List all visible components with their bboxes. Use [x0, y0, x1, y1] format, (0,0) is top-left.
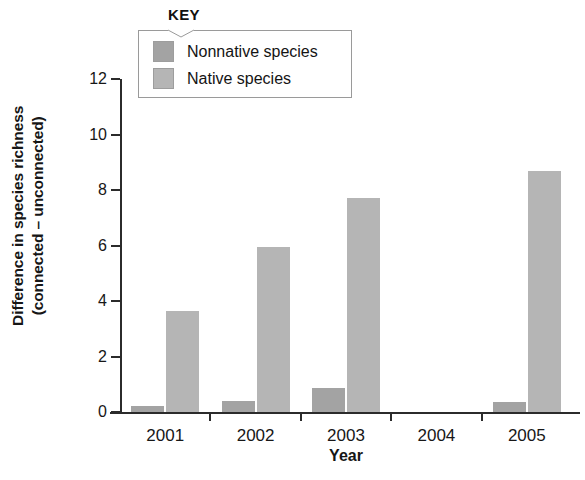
legend-item: Nonnative species — [153, 38, 351, 65]
bar — [312, 388, 345, 412]
y-tick-label: 8 — [98, 181, 107, 199]
y-axis-title-line1: Difference in species richness — [8, 21, 28, 411]
bar — [166, 311, 199, 412]
bar — [257, 247, 290, 412]
y-axis-line — [120, 79, 122, 413]
x-tick-mark — [209, 412, 211, 421]
y-tick-mark — [111, 134, 120, 136]
bar-chart-figure: Difference in species richness (connecte… — [0, 0, 585, 480]
x-axis-title: Year — [120, 447, 572, 465]
bar — [222, 401, 255, 412]
x-tick-mark — [390, 412, 392, 421]
plot-area: 024681012 20012002200320042005 — [120, 79, 572, 412]
y-tick-label: 6 — [98, 237, 107, 255]
x-tick-mark — [300, 412, 302, 421]
y-tick-label: 10 — [89, 126, 107, 144]
y-tick-label: 0 — [98, 403, 107, 421]
y-tick-mark — [111, 78, 120, 80]
x-tick-label: 2003 — [327, 426, 365, 446]
y-tick-label: 4 — [98, 292, 107, 310]
legend-item: Native species — [153, 65, 351, 92]
bar — [528, 171, 561, 412]
legend-label: Nonnative species — [187, 43, 318, 61]
legend-title: KEY — [168, 6, 200, 23]
legend-label: Native species — [187, 70, 291, 88]
bar — [131, 406, 164, 412]
y-tick-label: 2 — [98, 348, 107, 366]
x-tick-label: 2005 — [508, 426, 546, 446]
bar — [347, 198, 380, 412]
legend-pointer-notch — [168, 24, 194, 38]
legend-swatch — [153, 41, 174, 62]
x-tick-label: 2004 — [417, 426, 455, 446]
x-axis-line — [110, 412, 580, 414]
y-tick-label: 12 — [89, 70, 107, 88]
y-tick-mark — [111, 245, 120, 247]
y-axis-title: Difference in species richness (connecte… — [0, 0, 56, 440]
x-tick-label: 2002 — [237, 426, 275, 446]
legend-swatch — [153, 68, 174, 89]
y-axis-title-line2: (connected – unconnected) — [28, 21, 48, 411]
y-tick-mark — [111, 189, 120, 191]
x-tick-label: 2001 — [146, 426, 184, 446]
y-tick-mark — [111, 300, 120, 302]
bar — [493, 402, 526, 412]
y-tick-mark — [111, 356, 120, 358]
y-tick-mark — [111, 411, 120, 413]
legend-box: Nonnative speciesNative species — [138, 30, 352, 98]
x-tick-mark — [481, 412, 483, 421]
